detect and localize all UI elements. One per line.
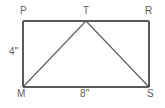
vertex-label-T: T — [83, 6, 89, 16]
edge-triangle-MT — [23, 21, 86, 87]
vertex-label-P: P — [20, 6, 27, 16]
edge-triangle-TS — [86, 21, 149, 87]
measurement-label-base: 8" — [80, 89, 90, 99]
geometry-figure: P T R M S 4" 8" — [0, 0, 165, 108]
vertex-label-M: M — [17, 89, 26, 99]
measurement-label-height: 4" — [9, 47, 19, 57]
vertex-label-S: S — [147, 89, 154, 99]
vertex-label-R: R — [145, 6, 152, 16]
